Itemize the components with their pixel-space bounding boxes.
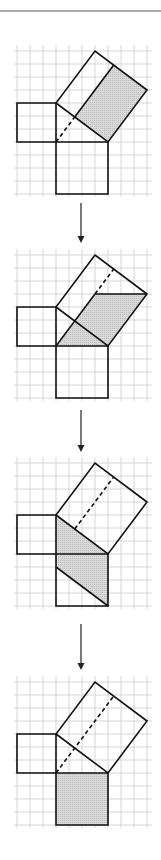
square-short-leg (17, 734, 56, 773)
down-arrow-icon (78, 203, 85, 243)
altitude-dashed (56, 117, 75, 142)
shaded-area (56, 773, 108, 825)
panel-step-1 (14, 45, 152, 197)
square-hypotenuse (56, 682, 147, 773)
panel-step-3 (14, 457, 152, 609)
altitude-dashed (56, 696, 114, 773)
pythagoras-shear-diagram (0, 0, 161, 860)
square-short-leg (17, 307, 56, 346)
square-short-leg (17, 515, 56, 554)
altitude-dashed (95, 269, 114, 294)
down-arrow-icon (78, 410, 85, 452)
square-short-leg (17, 103, 56, 142)
down-arrow-icon (78, 624, 85, 670)
panel-step-4 (14, 676, 152, 828)
panel-step-2 (14, 249, 152, 401)
